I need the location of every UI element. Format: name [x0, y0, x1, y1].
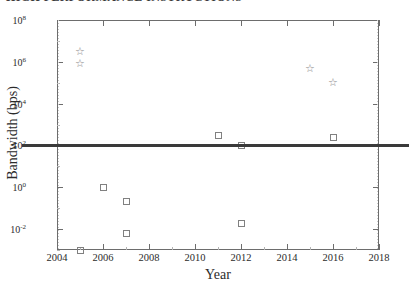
x-minor-tick-mark: [356, 247, 357, 250]
x-tick-mark-top: [287, 20, 288, 26]
x-tick-mark-top: [195, 20, 196, 26]
page-title: HIGH PERFORMANCE INSTRUCTIONS: [0, 0, 409, 3]
x-tick-label: 2018: [356, 252, 402, 263]
threshold-reference-line: [22, 144, 409, 146]
x-tick-mark-top: [241, 20, 242, 26]
y-tick-mark-right: [373, 104, 379, 105]
data-point-square: [100, 184, 107, 191]
y-tick-label: 108: [13, 15, 27, 26]
data-point-square: [215, 132, 222, 139]
x-tick-label: 2012: [218, 252, 264, 263]
y-minor-tick-mark: [57, 250, 60, 251]
y-tick-mark-right: [373, 229, 379, 230]
x-tick-mark: [103, 244, 104, 250]
x-minor-tick-mark: [126, 247, 127, 250]
data-point-star: ☆: [75, 58, 86, 69]
x-minor-tick-mark: [264, 247, 265, 250]
data-point-square: [123, 198, 130, 205]
x-tick-mark: [195, 244, 196, 250]
figure-container: HIGH PERFORMANCE INSTRUCTIONS Bandwidth …: [0, 0, 409, 293]
data-point-square: [238, 220, 245, 227]
clipped-title-strip: HIGH PERFORMANCE INSTRUCTIONS: [0, 0, 409, 3]
data-point-square: [123, 230, 130, 237]
y-tick-mark-right: [373, 62, 379, 63]
x-tick-label: 2010: [172, 252, 218, 263]
y-tick-mark-right: [373, 187, 379, 188]
x-tick-label: 2016: [310, 252, 356, 263]
x-tick-mark-top: [333, 20, 334, 26]
vertical-guide: [377, 20, 378, 250]
y-tick-label: 104: [13, 99, 27, 110]
y-tick-label: 100: [13, 182, 27, 193]
vertical-guide: [58, 20, 59, 250]
x-tick-mark-top: [149, 20, 150, 26]
x-tick-label: 2008: [126, 252, 172, 263]
x-axis-label: Year: [57, 267, 379, 283]
x-tick-label: 2014: [264, 252, 310, 263]
data-point-star: ☆: [305, 63, 316, 74]
x-tick-mark: [241, 244, 242, 250]
data-point-star: ☆: [328, 77, 339, 88]
x-tick-mark: [333, 244, 334, 250]
data-point-square: [330, 134, 337, 141]
x-tick-mark: [287, 244, 288, 250]
x-tick-mark: [379, 244, 380, 250]
x-minor-tick-mark: [310, 247, 311, 250]
x-tick-mark: [149, 244, 150, 250]
x-tick-label: 2004: [34, 252, 80, 263]
y-tick-label: 10-2: [10, 224, 26, 235]
data-point-star: ☆: [75, 46, 86, 57]
x-tick-mark-top: [103, 20, 104, 26]
x-minor-tick-mark: [218, 247, 219, 250]
x-minor-tick-mark: [172, 247, 173, 250]
data-point-square: [77, 247, 84, 254]
x-tick-label: 2006: [80, 252, 126, 263]
x-tick-mark-top: [379, 20, 380, 26]
y-tick-label: 106: [13, 57, 27, 68]
